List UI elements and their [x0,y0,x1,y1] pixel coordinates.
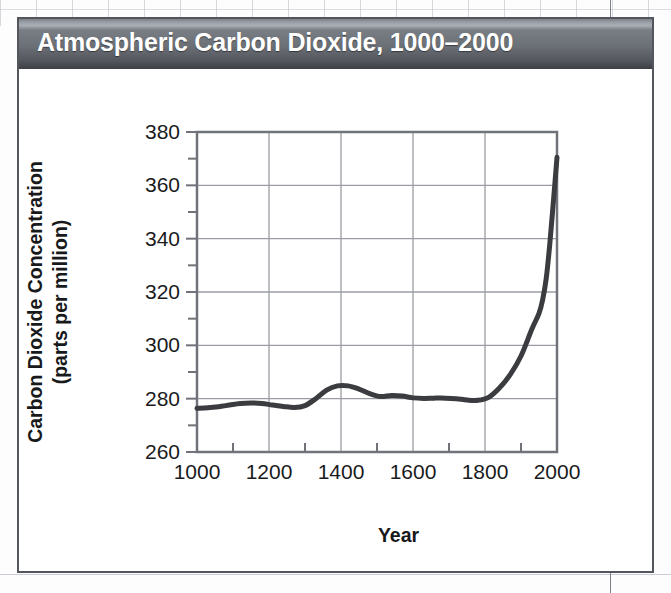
y-axis-title-line2: (parts per million) [48,132,73,472]
figure-title-bar: Atmospheric Carbon Dioxide, 1000–2000 [19,19,652,69]
x-axis-tick-labels: 100012001400160018002000 [174,460,581,483]
x-axis-tick-label: 1400 [318,460,365,483]
y-axis-tick-label: 260 [145,440,180,463]
x-axis-tick-label: 1800 [462,460,509,483]
y-axis-tick-label: 320 [145,280,180,303]
x-axis-title-text: Year [378,524,419,546]
x-axis-tick-label: 1000 [174,460,221,483]
y-axis-tick-label: 280 [145,387,180,410]
x-axis-tick-label: 1200 [246,460,293,483]
figure-title: Atmospheric Carbon Dioxide, 1000–2000 [37,28,513,57]
x-axis-tick-label: 1600 [390,460,437,483]
data-line-co2 [197,157,557,408]
y-axis-tick-label: 360 [145,173,180,196]
y-axis-title-line1: Carbon Dioxide Concentration [24,161,46,443]
x-axis-tick-label: 2000 [534,460,581,483]
line-chart-plot: 100012001400160018002000 260280300320340… [119,94,639,514]
y-axis-tick-label: 300 [145,333,180,356]
y-axis-tick-label: 380 [145,120,180,143]
y-axis-tick-labels: 260280300320340360380 [145,120,180,463]
y-axis-tick-label: 340 [145,227,180,250]
y-axis-title: Carbon Dioxide Concentration (parts per … [23,132,73,472]
figure-container: Atmospheric Carbon Dioxide, 1000–2000 Ca… [17,17,654,573]
x-axis-title: Year [19,524,652,547]
page-ruled-line-bottom [0,574,671,575]
data-series-layer [197,157,557,408]
